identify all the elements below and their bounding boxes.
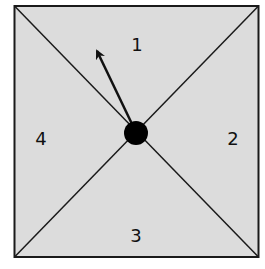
region-label-2: 2 (227, 128, 238, 149)
center-dot (124, 121, 148, 145)
region-label-3: 3 (130, 225, 141, 246)
region-label-4: 4 (35, 128, 46, 149)
region-label-1: 1 (131, 34, 142, 55)
quadrant-diagram: 1 2 3 4 (0, 0, 265, 269)
